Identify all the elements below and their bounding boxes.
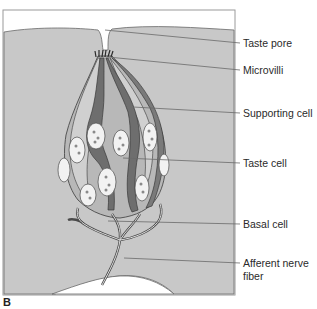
label-microvilli: Microvilli bbox=[243, 64, 283, 76]
label-supporting-cell: Supporting cell bbox=[243, 107, 312, 119]
label-afferent-nerve-fiber: Afferent nerve bbox=[243, 257, 309, 269]
label-taste-pore: Taste pore bbox=[243, 37, 292, 49]
label-afferent-nerve-fiber-line2: fiber bbox=[243, 270, 263, 282]
label-taste-cell: Taste cell bbox=[243, 157, 287, 169]
label-basal-cell: Basal cell bbox=[243, 218, 288, 230]
panel-label: B bbox=[3, 296, 11, 308]
